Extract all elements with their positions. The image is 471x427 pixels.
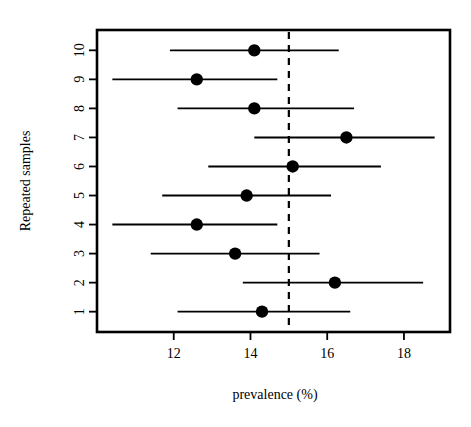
y-tick-label: 8 bbox=[72, 105, 87, 112]
y-tick-label: 9 bbox=[72, 76, 87, 83]
y-tick-label: 5 bbox=[72, 192, 87, 199]
data-point bbox=[248, 102, 260, 114]
data-point bbox=[329, 276, 341, 288]
x-axis-title: prevalence (%) bbox=[232, 387, 317, 403]
data-point bbox=[256, 305, 268, 317]
y-tick-label: 10 bbox=[72, 43, 87, 57]
data-point bbox=[248, 44, 260, 56]
y-tick-label: 2 bbox=[72, 279, 87, 286]
y-tick-label: 3 bbox=[72, 250, 87, 257]
y-tick-label: 6 bbox=[72, 163, 87, 170]
data-point bbox=[240, 189, 252, 201]
data-point bbox=[191, 218, 203, 230]
y-tick-label: 1 bbox=[72, 308, 87, 315]
x-tick-label: 14 bbox=[243, 346, 257, 361]
y-tick-label: 7 bbox=[72, 134, 87, 141]
x-tick-label: 18 bbox=[397, 346, 411, 361]
forest-plot-figure: 12141618 12345678910 prevalence (%) Repe… bbox=[0, 0, 471, 427]
y-tick-label: 4 bbox=[72, 221, 87, 228]
data-point bbox=[340, 131, 352, 143]
x-tick-label: 16 bbox=[320, 346, 334, 361]
y-axis-title: Repeated samples bbox=[18, 131, 33, 232]
data-point bbox=[286, 160, 298, 172]
plot-background bbox=[0, 0, 471, 427]
data-point bbox=[229, 247, 241, 259]
x-tick-label: 12 bbox=[167, 346, 181, 361]
data-point bbox=[191, 73, 203, 85]
forest-plot-svg: 12141618 12345678910 prevalence (%) Repe… bbox=[0, 0, 471, 427]
